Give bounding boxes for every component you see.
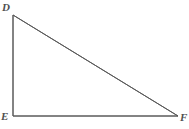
geometry-figure: D E F <box>0 0 189 129</box>
triangle-edge-df <box>13 15 178 116</box>
triangle-drawing <box>0 0 189 129</box>
vertex-label-f: F <box>180 112 187 123</box>
vertex-label-d: D <box>2 2 10 13</box>
vertex-label-e: E <box>1 111 8 122</box>
